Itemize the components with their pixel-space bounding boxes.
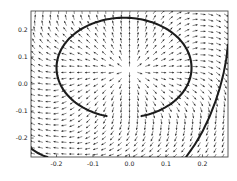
x-tick-label: 0.1 [161,160,171,167]
x-tick-label: -0.2 [50,160,62,167]
x-tick-label: 0.2 [198,160,208,167]
plot-canvas: -0.2-0.10.00.10.2-0.2-0.10.00.10.2 [0,0,237,181]
y-tick-label: 0.1 [18,53,28,60]
y-tick-label: 0.0 [18,80,28,87]
x-tick-label: -0.1 [87,160,99,167]
vector-field-figure: -0.2-0.10.00.10.2-0.2-0.10.00.10.2 [0,0,237,181]
y-tick-label: -0.2 [16,134,28,141]
y-tick-label: -0.1 [16,107,28,114]
x-tick-label: 0.0 [125,160,135,167]
y-tick-label: 0.2 [18,26,28,33]
